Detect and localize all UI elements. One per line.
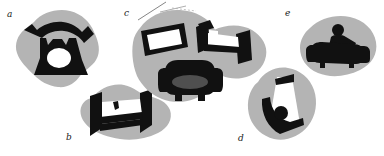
panel-label-b: b bbox=[66, 133, 72, 142]
telephone-dial bbox=[47, 48, 71, 68]
ball-sphere-e bbox=[332, 24, 344, 36]
panel-d-group bbox=[248, 68, 316, 140]
panel-label-e: e bbox=[285, 9, 290, 18]
armchair-cushion bbox=[172, 75, 208, 89]
panel-label-d: d bbox=[238, 134, 244, 143]
figure-canvas: a b c d e bbox=[0, 0, 384, 156]
silhouette-figure-svg bbox=[0, 0, 384, 156]
panel-label-a: a bbox=[7, 10, 12, 19]
sofa-armrest-right bbox=[360, 46, 370, 63]
panel-a-group bbox=[16, 10, 99, 87]
panel-c-group bbox=[132, 2, 266, 102]
armchair-armrest-left bbox=[158, 68, 168, 92]
ball-sphere bbox=[274, 106, 288, 120]
sofa-armrest-left bbox=[306, 45, 316, 62]
panel-label-c: c bbox=[124, 9, 129, 18]
panel-e-group bbox=[300, 16, 376, 76]
armchair-armrest-right bbox=[212, 68, 223, 92]
